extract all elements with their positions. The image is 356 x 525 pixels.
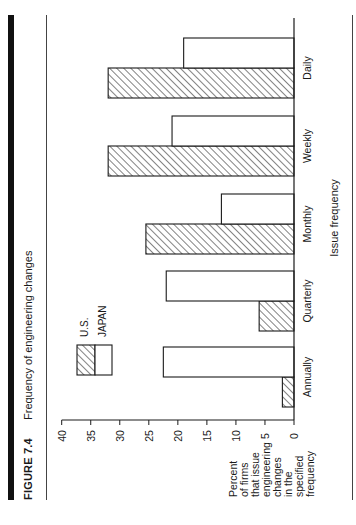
legend-label-us: U.S.: [79, 318, 90, 337]
bars-group: [108, 38, 294, 407]
y-tick-label: 30: [114, 430, 126, 442]
x-category-label: Daily: [301, 56, 313, 79]
figure-page: FIGURE 7.4 Frequency of engineering chan…: [0, 0, 356, 525]
legend: [77, 345, 112, 375]
y-tick-label: 10: [230, 430, 242, 442]
bar-us-quarterly: [259, 301, 294, 331]
bottom-rule: [352, 15, 353, 500]
legend-swatch-us: [77, 345, 95, 375]
y-tick-label: 20: [172, 430, 184, 442]
bar-japan-weekly: [172, 116, 294, 146]
x-axis-title: Issue frequency: [328, 179, 340, 257]
y-tick-label: 15: [201, 430, 213, 442]
y-tick-label: 25: [143, 430, 155, 442]
y-tick-label: 35: [85, 430, 97, 442]
legend-swatch-japan: [95, 345, 112, 375]
bar-us-monthly: [146, 224, 294, 254]
y-tick-label: 40: [56, 430, 68, 442]
x-category-label: Weekly: [301, 129, 313, 163]
bar-us-annually: [282, 377, 294, 407]
x-category-label: Annually: [301, 357, 313, 397]
x-category-label: Quarterly: [301, 279, 313, 322]
bar-japan-annually: [163, 347, 294, 377]
y-tick-label: 5: [259, 433, 271, 439]
x-category-label: Monthly: [301, 206, 313, 243]
bar-us-daily: [108, 68, 294, 98]
bar-japan-monthly: [221, 194, 294, 224]
y-tick-label: 0: [288, 433, 300, 439]
legend-label-japan: JAPAN: [97, 306, 108, 338]
bar-us-weekly: [108, 146, 294, 176]
bar-japan-daily: [184, 38, 294, 68]
bar-japan-quarterly: [166, 271, 294, 301]
